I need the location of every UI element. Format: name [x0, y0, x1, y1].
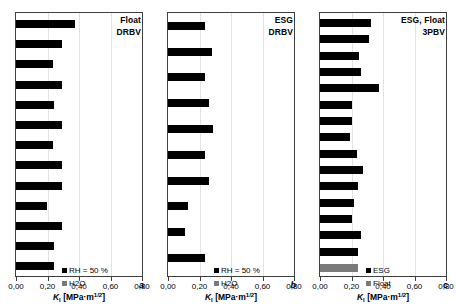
bars-c [320, 16, 446, 277]
bar-primary [320, 199, 354, 207]
axis-unit-open: [MPa·m [367, 292, 398, 302]
panel-title-a-line1: Float [117, 14, 142, 26]
panel-title-c-line2: 3PBV [401, 26, 445, 38]
bar-primary [16, 101, 54, 109]
bar-primary [320, 84, 379, 92]
bar-row [168, 125, 294, 145]
x-tick [415, 277, 416, 281]
axis-unit-close: ] [254, 292, 257, 302]
x-axis-title-b: KI [MPa·m1/2] [167, 292, 295, 302]
bar-primary [168, 99, 209, 107]
bar-row [168, 202, 294, 222]
bar-row [16, 121, 142, 137]
x-tick [168, 277, 169, 281]
axis-unit-open: [MPa·m [215, 292, 246, 302]
axis-subscript: I [211, 297, 213, 303]
bar-primary [16, 202, 47, 210]
axis-exponent: 1/2 [398, 292, 406, 298]
bar-row [320, 101, 446, 115]
panel-title-b-line1: ESG [269, 14, 294, 26]
panel-title-b: ESG DRBV [269, 14, 294, 38]
bar-primary [320, 117, 352, 125]
gridline [294, 13, 295, 276]
x-tick [48, 277, 49, 281]
x-tick [231, 277, 232, 281]
bar-row [320, 68, 446, 82]
bar-row [168, 73, 294, 93]
bar-primary [16, 121, 62, 129]
x-tick [263, 277, 264, 281]
legend-label-c-0: ESG [373, 264, 390, 277]
bar-primary [320, 52, 359, 60]
legend-item-b-0: RH = 50 % [214, 264, 260, 277]
x-ticks-a [15, 277, 143, 281]
bar-primary [320, 35, 369, 43]
x-tick-label: 0,40 [71, 282, 87, 291]
bar-primary [168, 22, 205, 30]
x-tick [200, 277, 201, 281]
figure-three-panel-bar-chart: Float DRBV RH = 50 % H2O a 0,000,200,400… [0, 0, 456, 306]
legend-swatch-icon [366, 268, 371, 273]
bar-primary [320, 166, 363, 174]
bars-b [168, 16, 294, 277]
bar-row [320, 166, 446, 180]
gridline [446, 13, 447, 276]
bar-row [320, 150, 446, 164]
panel-title-c-line1: ESG, Float [401, 14, 445, 26]
bar-primary [16, 182, 62, 190]
bar-row [320, 231, 446, 245]
bar-primary [16, 222, 62, 230]
bar-row [168, 177, 294, 197]
bar-primary [320, 215, 352, 223]
x-tick-label: 0,40 [223, 282, 239, 291]
panel-title-a: Float DRBV [117, 14, 142, 38]
bar-primary [16, 40, 62, 48]
bar-row [16, 60, 142, 76]
panel-c: ESG, Float 3PBV ESG Float c 0,000,200,40… [304, 0, 456, 306]
bar-row [168, 48, 294, 68]
bars-a [16, 16, 142, 277]
legend-swatch-icon [62, 268, 67, 273]
bar-primary [168, 73, 205, 81]
x-tick [142, 277, 143, 281]
bar-row [16, 101, 142, 117]
bar-primary [320, 68, 361, 76]
bar-primary [168, 254, 205, 262]
x-tick-label: 0,40 [375, 282, 391, 291]
plot-area-b [167, 12, 295, 277]
x-tick-label: 0,80 [286, 282, 302, 291]
panel-title-b-line2: DRBV [269, 26, 294, 38]
bar-row [16, 141, 142, 157]
x-ticks-c [319, 277, 447, 281]
x-tick-label: 0,80 [134, 282, 150, 291]
x-tick-label: 0,20 [192, 282, 208, 291]
bar-primary [320, 248, 358, 256]
x-tick [383, 277, 384, 281]
axis-subscript: I [363, 297, 365, 303]
bar-primary [168, 151, 205, 159]
bar-primary [168, 125, 213, 133]
bar-row [16, 222, 142, 238]
x-tick [320, 277, 321, 281]
bar-primary [168, 177, 209, 185]
bar-primary [168, 228, 185, 236]
axis-exponent: 1/2 [94, 292, 102, 298]
x-tick-label: 0,00 [312, 282, 328, 291]
x-axis-title-c: KI [MPa·m1/2] [319, 292, 447, 302]
bar-row [16, 40, 142, 56]
bar-primary [320, 182, 358, 190]
bar-primary [16, 20, 75, 28]
bar-row [168, 99, 294, 119]
x-ticks-b [167, 277, 295, 281]
bar-primary [168, 48, 212, 56]
x-tick-label: 0,60 [255, 282, 271, 291]
panel-a: Float DRBV RH = 50 % H2O a 0,000,200,400… [0, 0, 152, 306]
x-tick-label: 0,20 [40, 282, 56, 291]
bar-primary [16, 141, 53, 149]
bar-primary [16, 262, 54, 270]
panel-title-a-line2: DRBV [117, 26, 142, 38]
bar-row [320, 84, 446, 98]
bar-primary [16, 60, 53, 68]
x-axis-title-a: KI [MPa·m1/2] [15, 292, 143, 302]
bar-row [320, 52, 446, 66]
